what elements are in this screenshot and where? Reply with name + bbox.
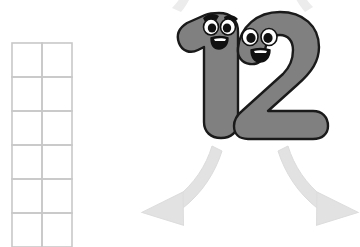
digit-two — [234, 12, 328, 139]
digit-two-pupil-right-icon — [263, 33, 272, 43]
digit-one-pupil-left-icon — [208, 23, 216, 32]
digit-one-teeth-icon — [214, 38, 226, 41]
cartoon-number-12 — [0, 0, 360, 247]
digit-two-pupil-left-icon — [246, 33, 255, 43]
worksheet-canvas — [0, 0, 360, 247]
digit-one-pupil-right-icon — [223, 23, 231, 32]
digit-two-teeth-icon — [254, 50, 267, 53]
digit-one — [178, 13, 238, 138]
